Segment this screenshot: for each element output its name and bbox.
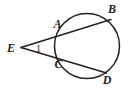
point-label-b: B xyxy=(107,2,116,16)
angle-label-1: 1 xyxy=(36,43,41,54)
point-label-e: E xyxy=(6,41,15,55)
circle-shape xyxy=(55,14,120,79)
point-label-d: D xyxy=(102,73,112,87)
point-label-c: C xyxy=(54,57,63,71)
point-label-a: A xyxy=(52,17,61,31)
geometry-figure: E A B C D 1 xyxy=(0,0,133,89)
secant-line-eab xyxy=(21,20,111,48)
geometry-canvas: E A B C D 1 xyxy=(0,0,133,89)
